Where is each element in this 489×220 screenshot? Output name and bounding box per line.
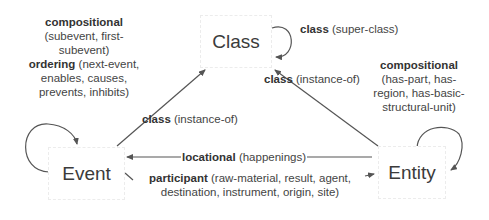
class-self-loop-arrow [272,27,291,57]
event-node: Event [48,147,125,200]
entity-to-event-label: locational (happenings) [181,150,307,164]
entity-node: Entity [378,146,446,199]
entity-node-label: Entity [388,162,436,184]
event-node-label: Event [62,163,111,185]
entity-self-label: compositional (has-part, has- region, ha… [360,58,478,114]
class-self-label: class (super-class) [300,22,398,36]
class-node: Class [200,15,272,68]
event-to-class-label: class (instance-of) [142,112,238,126]
class-node-label: Class [212,31,260,53]
event-to-entity-label: participant (raw-material, result, agent… [128,171,372,199]
ontology-diagram: Class Event Entity class (super-class) c… [0,0,489,220]
entity-to-class-label: class (instance-of) [264,72,360,86]
event-self-label: compositional (subevent, first- subevent… [6,15,162,99]
